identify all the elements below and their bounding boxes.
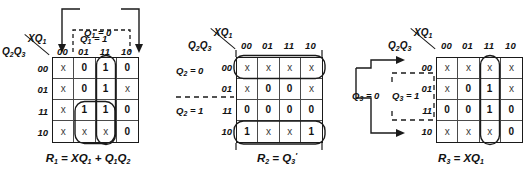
kmap-r1-cell-r2c2: 1 (96, 100, 117, 121)
kmap-r3-column-headers: 00011110 (436, 40, 522, 51)
kmap-r3-row-header-00: 00 (406, 62, 432, 73)
kmap-r1-cell-r3c2: x (96, 121, 117, 142)
kmap-r1-cell-r0c0: x (53, 58, 74, 79)
kmap-r2-row-header-00: 00 (206, 62, 232, 73)
kmap-r3: XQ1 Q2Q3 00011110 00 01 11 10 Q3 = 0 (352, 0, 528, 180)
kmap-r3-label-q3-1: Q3 = 1 (392, 90, 419, 101)
kmap-r1-grid: x 0 1 0 x 0 1 x x 1 1 0 x x x 0 (52, 57, 139, 143)
kmap-r3-cell-r2c1: 0 (458, 100, 479, 121)
kmap-r1-row-var-label: Q2Q3 (2, 46, 25, 57)
kmap-r2-cell-r1c1: 0 (258, 79, 279, 100)
kmap-r3-cell-r2c0: 0 (437, 100, 458, 121)
kmap-r3-cell-r1c3: x (501, 79, 522, 100)
kmap-r3-cell-r3c2: x (480, 121, 501, 142)
kmap-r2-row-header-10: 10 (206, 126, 232, 137)
kmap-r3-cell-r3c1: x (458, 121, 479, 142)
kmap-r2-cell-r2c1: 0 (258, 100, 279, 121)
kmap-r2-cell-r2c3: 0 (301, 100, 322, 121)
kmap-r1: Q1 = 0 Q1 = 1 XQ1 Q2Q3 00011110 00 01 11… (0, 0, 176, 180)
kmap-r2-row-header-11: 11 (206, 105, 232, 116)
kmap-r3-row-var-label: Q2Q3 (388, 40, 411, 51)
kmap-r2-row-var-label: Q2Q3 (188, 40, 211, 51)
kmap-r1-cell-r1c0: x (53, 79, 74, 100)
kmap-r2-cell-r1c2: 0 (280, 79, 301, 100)
kmap-r3-label-q3-0: Q3 = 0 (352, 90, 379, 101)
kmap-r1-cell-r2c3: 0 (117, 100, 138, 121)
kmap-r3-cell-r3c0: x (437, 121, 458, 142)
kmap-r3-cell-r0c1: x (458, 58, 479, 79)
kmap-r2-grid: x x x x x 0 0 x 0 0 0 0 1 x x 1 (236, 57, 323, 143)
kmap-r1-cell-r2c0: x (53, 100, 74, 121)
kmap-r1-equation: R1 = XQ1 + Q1Q2 (0, 152, 176, 164)
kmap-r2-cell-r0c3: x (301, 58, 322, 79)
kmap-r3-cell-r0c0: x (437, 58, 458, 79)
kmap-r1-column-headers: 00011110 (52, 46, 138, 57)
kmap-r1-cell-r1c2: 1 (96, 79, 117, 100)
kmap-r2: XQ1 Q2Q3 00011110 00 01 11 10 Q2 = 0 Q2 … (176, 0, 352, 180)
kmap-r1-cell-r3c0: x (53, 121, 74, 142)
kmap-r2-label-q2-0: Q2 = 0 (176, 65, 203, 76)
kmap-r1-label-q1-1: Q1 = 1 (80, 33, 107, 44)
kmap-r2-cell-r3c1: x (258, 121, 279, 142)
kmap-r3-cell-r3c3: 0 (501, 121, 522, 142)
kmap-r1-row-header-10: 10 (22, 127, 48, 138)
kmap-r2-cell-r3c3: 1 (301, 121, 322, 142)
kmap-r2-cell-r1c0: x (237, 79, 258, 100)
kmap-r3-grid: x x x x x 0 1 x 0 0 1 0 x x x 0 (436, 57, 523, 143)
kmap-r1-cell-r0c3: 0 (117, 58, 138, 79)
kmap-r3-cell-r1c1: 0 (458, 79, 479, 100)
kmap-figure: Q1 = 0 Q1 = 1 XQ1 Q2Q3 00011110 00 01 11… (0, 0, 528, 180)
kmap-r2-column-headers: 00011110 (236, 40, 322, 51)
kmap-r1-row-header-11: 11 (22, 106, 48, 117)
kmap-r1-cell-r0c2: 1 (96, 58, 117, 79)
kmap-r3-cell-r2c3: 0 (501, 100, 522, 121)
kmap-r2-row-header-01: 01 (206, 83, 232, 94)
kmap-r2-cell-r2c0: 0 (237, 100, 258, 121)
kmap-r3-equation: R3 = XQ1 (394, 152, 528, 164)
kmap-r2-cell-r0c2: x (280, 58, 301, 79)
kmap-r2-label-q2-1: Q2 = 1 (176, 105, 203, 116)
kmap-r1-cell-r3c1: x (74, 121, 95, 142)
kmap-r1-cell-r2c1: 1 (74, 100, 95, 121)
kmap-r3-cell-r1c0: x (437, 79, 458, 100)
kmap-r1-cell-r1c1: 0 (74, 79, 95, 100)
kmap-r3-cell-r2c2: 1 (480, 100, 501, 121)
kmap-r2-cell-r3c2: x (280, 121, 301, 142)
kmap-r1-cell-r1c3: x (117, 79, 138, 100)
kmap-r3-cell-r0c2: x (480, 58, 501, 79)
kmap-r2-equation: R2 = Q3′ (202, 152, 352, 164)
kmap-r3-row-header-10: 10 (406, 126, 432, 137)
kmap-r2-cell-r3c0: 1 (237, 121, 258, 142)
kmap-r1-row-header-00: 00 (22, 63, 48, 74)
kmap-r1-cell-r3c3: 0 (117, 121, 138, 142)
kmap-r2-cell-r0c0: x (237, 58, 258, 79)
kmap-r1-row-header-01: 01 (22, 84, 48, 95)
kmap-r3-cell-r1c2: 1 (480, 79, 501, 100)
kmap-r3-cell-r0c3: x (501, 58, 522, 79)
kmap-r2-cell-r1c3: x (301, 79, 322, 100)
kmap-r2-cell-r2c2: 0 (280, 100, 301, 121)
kmap-r1-cell-r0c1: 0 (74, 58, 95, 79)
kmap-r2-cell-r0c1: x (258, 58, 279, 79)
kmap-r3-row-header-11: 11 (406, 105, 432, 116)
